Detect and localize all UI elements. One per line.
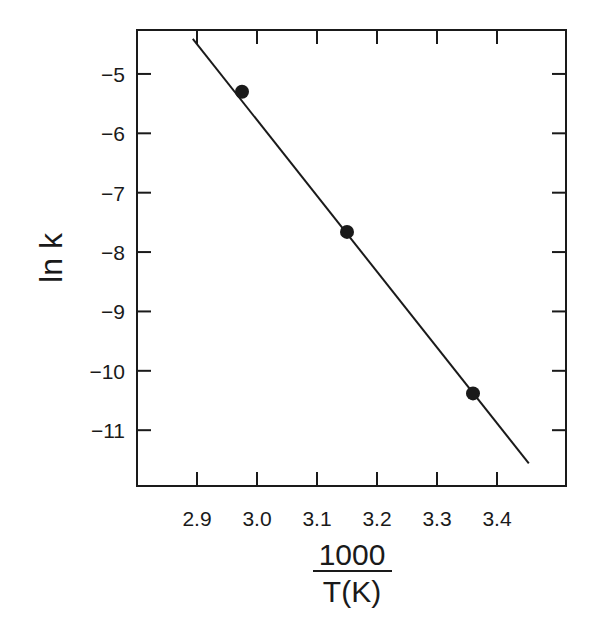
- x-axis-label-denominator: T(K): [323, 575, 381, 608]
- x-tick-label: 3.2: [362, 507, 391, 530]
- x-axis-label-numerator: 1000: [319, 538, 386, 571]
- y-tick-label: −9: [101, 300, 125, 323]
- y-axis-ticks: [137, 74, 566, 430]
- x-tick-label: 2.9: [182, 507, 211, 530]
- data-points: [235, 85, 480, 401]
- x-tick-label: 3.3: [422, 507, 451, 530]
- y-tick-label: −8: [101, 241, 125, 264]
- y-tick-label: −11: [91, 419, 125, 442]
- x-tick-label: 3.4: [482, 507, 512, 530]
- y-tick-label: −10: [89, 360, 125, 383]
- x-axis-label: 1000 T(K): [313, 538, 392, 608]
- x-axis-tick-labels: 2.93.03.13.23.33.4: [182, 507, 512, 530]
- arrhenius-plot: 2.93.03.13.23.33.4 −5−6−7−8−9−10−11 ln k…: [0, 0, 593, 627]
- data-point: [340, 225, 354, 239]
- y-tick-label: −7: [101, 182, 125, 205]
- linear-fit-line: [193, 39, 529, 464]
- y-tick-label: −5: [101, 63, 125, 86]
- y-tick-label: −6: [101, 122, 125, 145]
- plot-frame: [137, 30, 566, 486]
- data-point: [466, 386, 480, 400]
- x-tick-label: 3.0: [242, 507, 271, 530]
- y-axis-tick-labels: −5−6−7−8−9−10−11: [89, 63, 125, 442]
- data-point: [235, 85, 249, 99]
- y-axis-label: ln k: [33, 232, 69, 283]
- x-tick-label: 3.1: [302, 507, 331, 530]
